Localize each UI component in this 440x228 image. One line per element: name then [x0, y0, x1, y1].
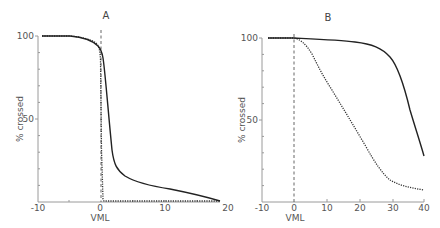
- panel-a-dotted-series: [42, 36, 220, 201]
- panel-a: A 100 50 % crossed -10 0 10: [15, 10, 220, 223]
- panel-a-x-label: VML: [91, 213, 110, 223]
- figure: A 100 50 % crossed -10 0 10: [0, 0, 440, 228]
- panel-b-xtick-10: 10: [321, 203, 333, 213]
- panel-a-title: A: [103, 10, 110, 21]
- panel-b-xtick-30: 30: [387, 203, 399, 213]
- panel-b-xtick-minus10: -10: [255, 203, 270, 213]
- panel-a-solid-series: [42, 36, 220, 201]
- panel-b: B 100 50 % crossed -10 0 10: [222, 12, 430, 223]
- panel-a-y-label: % crossed: [15, 96, 25, 142]
- panel-a-xtick-0: 0: [97, 203, 103, 213]
- panel-b-dotted-series: [268, 38, 424, 190]
- panel-b-ytick-50: 50: [247, 115, 259, 125]
- panel-b-xtick-40: 40: [418, 203, 430, 213]
- panel-b-title: B: [325, 12, 332, 23]
- panel-a-xtick-10: 10: [159, 203, 171, 213]
- panel-b-y-label: % crossed: [237, 97, 247, 143]
- panel-b-xtick-20: 20: [354, 203, 366, 213]
- panel-b-solid-series: [268, 38, 424, 156]
- panel-b-xtick-0: 0: [291, 203, 297, 213]
- panel-b-x-label: VML: [286, 213, 305, 223]
- panel-a-xtick-20: 20: [222, 203, 234, 213]
- panel-a-ytick-100: 100: [17, 31, 34, 41]
- panel-b-ytick-100: 100: [241, 33, 258, 43]
- panel-a-xtick-minus10: -10: [31, 203, 46, 213]
